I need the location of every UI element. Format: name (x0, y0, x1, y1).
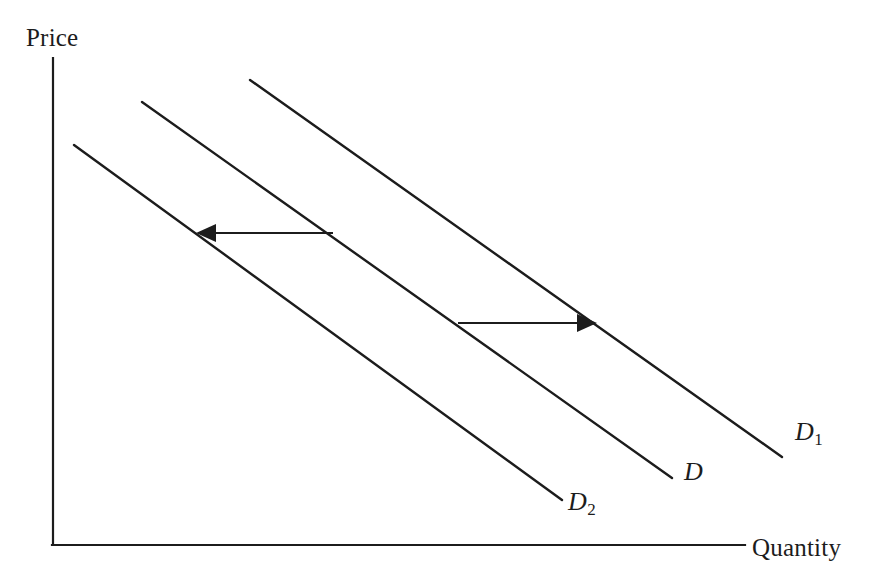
quantity-axis-label: Quantity (752, 534, 841, 562)
curve-label-d1-subscript: 1 (814, 430, 823, 449)
axes-group (52, 58, 745, 545)
curve-label-d-base: D (684, 457, 703, 486)
demand-curve-d1 (250, 80, 782, 457)
curve-label-d1: D1 (795, 417, 823, 450)
demand-curves-group (74, 80, 782, 500)
curve-label-d2: D2 (568, 487, 596, 520)
demand-curve-d (142, 102, 672, 478)
leftward-shift-arrow (196, 224, 333, 242)
curve-label-d-subscript (703, 470, 704, 489)
curve-label-d2-base: D (568, 487, 587, 516)
diagram-canvas (0, 0, 894, 586)
rightward-arrow-head (577, 314, 597, 332)
rightward-shift-arrow (458, 314, 597, 332)
curve-label-d2-subscript: 2 (587, 500, 596, 519)
curve-label-d: D (684, 457, 703, 490)
leftward-arrow-head (196, 224, 216, 242)
demand-shift-diagram: Price Quantity D1 D D2 (0, 0, 894, 586)
price-axis-label: Price (26, 24, 78, 52)
curve-label-d1-base: D (795, 417, 814, 446)
